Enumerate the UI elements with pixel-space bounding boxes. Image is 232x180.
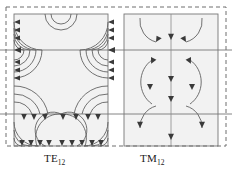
te12-label-main: TE [44, 152, 58, 164]
waveguide-mode-figure: TE12 TM12 [0, 0, 232, 180]
panel-backgrounds [14, 14, 218, 146]
te12-label-sub: 12 [58, 158, 66, 167]
field-pattern-canvas [0, 0, 232, 180]
te12-mode-label: TE12 [44, 152, 65, 167]
tm12-label-main: TM [140, 152, 157, 164]
tm12-mode-label: TM12 [140, 152, 164, 167]
tm12-label-sub: 12 [157, 158, 165, 167]
